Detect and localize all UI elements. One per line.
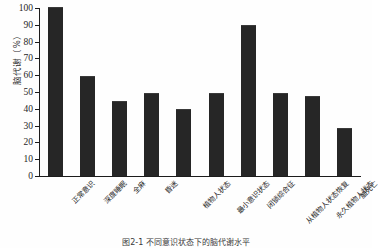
y-tick-label: 40: [24, 109, 34, 110]
y-tick-label: 70: [24, 58, 34, 59]
y-tick-label: 100: [19, 8, 33, 9]
x-axis-label: 昏迷: [162, 178, 179, 195]
x-axis-label: 全麻: [130, 178, 147, 195]
figure-caption: 图2-1 不同意识状态下的脑代谢水平: [0, 236, 372, 247]
x-axis-labels: 正常意识深度睡眠全麻昏迷植物人状态最小意识状态闭锁综合征从植物人状态恢复永久植物…: [39, 178, 361, 240]
y-tick-label: 30: [24, 126, 34, 127]
y-axis-title: 脑代谢（%）: [10, 18, 22, 98]
bar: [209, 93, 224, 176]
bar: [273, 93, 288, 176]
y-tick-label: 10: [24, 159, 34, 160]
bar: [80, 76, 95, 176]
y-tick-mark: [35, 176, 39, 177]
bar: [337, 128, 352, 176]
y-tick-label: 50: [24, 92, 34, 93]
y-tick-label: 20: [24, 142, 34, 143]
bar: [144, 93, 159, 176]
x-axis-line: [39, 176, 361, 177]
bar: [241, 25, 256, 176]
y-tick-label: 90: [24, 25, 34, 26]
bar: [112, 101, 127, 176]
y-tick-label: 80: [24, 42, 34, 43]
x-axis-label: 深度睡眠: [102, 178, 129, 205]
bar: [48, 7, 63, 176]
plot-area: 0102030405060708090100: [39, 8, 361, 176]
x-axis-label: 正常意识: [69, 178, 96, 205]
bar: [305, 96, 320, 176]
bar: [176, 109, 191, 176]
x-axis-label: 脑死亡: [357, 178, 379, 200]
y-tick-label: 60: [24, 75, 34, 76]
y-tick-label: 0: [28, 176, 33, 177]
x-axis-label: 最小意识状态: [235, 178, 272, 215]
x-axis-label: 植物人状态: [200, 178, 232, 210]
bar-series: [39, 8, 361, 176]
